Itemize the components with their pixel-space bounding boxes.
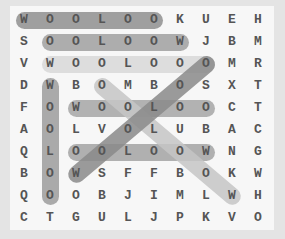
letter-cell[interactable]: O	[89, 97, 115, 119]
letter-cell[interactable]: G	[63, 207, 89, 229]
letter-cell[interactable]: S	[11, 31, 37, 53]
letter-cell[interactable]: M	[115, 75, 141, 97]
letter-cell[interactable]: B	[193, 119, 219, 141]
letter-cell[interactable]: B	[63, 75, 89, 97]
letter-cell[interactable]: J	[115, 185, 141, 207]
letter-cell[interactable]: M	[245, 31, 271, 53]
letter-cell[interactable]: O	[115, 31, 141, 53]
letter-cell[interactable]: O	[167, 97, 193, 119]
letter-cell[interactable]: V	[89, 119, 115, 141]
letter-cell[interactable]: O	[37, 163, 63, 185]
letter-cell[interactable]: Q	[11, 185, 37, 207]
letter-cell[interactable]: O	[37, 185, 63, 207]
letter-cell[interactable]: W	[245, 163, 271, 185]
letter-cell[interactable]: B	[11, 163, 37, 185]
letter-cell[interactable]: H	[245, 185, 271, 207]
letter-cell[interactable]: N	[219, 141, 245, 163]
letter-cell[interactable]: L	[141, 97, 167, 119]
letter-cell[interactable]: L	[89, 31, 115, 53]
letter-cell[interactable]: O	[115, 119, 141, 141]
letter-cell[interactable]: W	[37, 53, 63, 75]
letter-cell[interactable]: O	[115, 97, 141, 119]
letter-cell[interactable]: O	[193, 163, 219, 185]
letter-cell[interactable]: K	[193, 207, 219, 229]
letter-cell[interactable]: A	[11, 119, 37, 141]
letter-cell[interactable]: L	[115, 53, 141, 75]
letter-cell[interactable]: L	[141, 119, 167, 141]
letter-cell[interactable]: O	[167, 141, 193, 163]
letter-cell[interactable]: O	[167, 75, 193, 97]
letter-cell[interactable]: S	[193, 75, 219, 97]
letter-cell[interactable]: W	[37, 75, 63, 97]
letter-cell[interactable]: D	[11, 75, 37, 97]
letter-cell[interactable]: O	[115, 9, 141, 31]
letter-cell[interactable]: W	[167, 31, 193, 53]
letter-cell[interactable]: J	[193, 31, 219, 53]
letter-cell[interactable]: V	[11, 53, 37, 75]
letter-cell[interactable]: V	[219, 207, 245, 229]
letter-cell[interactable]: C	[245, 119, 271, 141]
letter-cell[interactable]: O	[141, 141, 167, 163]
letter-cell[interactable]: E	[219, 9, 245, 31]
letter-cell[interactable]: O	[63, 53, 89, 75]
letter-cell[interactable]: U	[193, 9, 219, 31]
letter-cell[interactable]: K	[219, 163, 245, 185]
letter-cell[interactable]: O	[89, 141, 115, 163]
letter-cell[interactable]: C	[11, 207, 37, 229]
letter-cell[interactable]: S	[89, 163, 115, 185]
letter-cell[interactable]: O	[63, 141, 89, 163]
letter-cell[interactable]: P	[167, 207, 193, 229]
letter-cell[interactable]: F	[141, 163, 167, 185]
letter-cell[interactable]: R	[245, 53, 271, 75]
letter-cell[interactable]: W	[63, 163, 89, 185]
letter-cell[interactable]: O	[141, 31, 167, 53]
letter-cell[interactable]: F	[115, 163, 141, 185]
letter-cell[interactable]: W	[219, 185, 245, 207]
letter-cell[interactable]: O	[141, 9, 167, 31]
letter-cell[interactable]: O	[37, 97, 63, 119]
letter-cell[interactable]: B	[89, 185, 115, 207]
letter-cell[interactable]: O	[89, 75, 115, 97]
letter-cell[interactable]: O	[245, 207, 271, 229]
letter-cell[interactable]: O	[193, 53, 219, 75]
letter-cell[interactable]: A	[219, 119, 245, 141]
letter-cell[interactable]: L	[63, 119, 89, 141]
letter-cell[interactable]: U	[89, 207, 115, 229]
letter-cell[interactable]: O	[193, 97, 219, 119]
letter-cell[interactable]: C	[219, 97, 245, 119]
letter-cell[interactable]: T	[245, 75, 271, 97]
letter-cell[interactable]: O	[63, 185, 89, 207]
letter-cell[interactable]: O	[89, 53, 115, 75]
letter-cell[interactable]: M	[219, 53, 245, 75]
letter-cell[interactable]: K	[167, 9, 193, 31]
letter-cell[interactable]: M	[167, 185, 193, 207]
letter-cell[interactable]: L	[193, 185, 219, 207]
letter-cell[interactable]: T	[37, 207, 63, 229]
letter-cell[interactable]: O	[37, 119, 63, 141]
letter-cell[interactable]: O	[63, 31, 89, 53]
letter-cell[interactable]: T	[245, 97, 271, 119]
letter-cell[interactable]: X	[219, 75, 245, 97]
letter-cell[interactable]: H	[245, 9, 271, 31]
letter-cell[interactable]: F	[11, 97, 37, 119]
letter-cell[interactable]: J	[141, 207, 167, 229]
letter-cell[interactable]: Q	[11, 141, 37, 163]
letter-cell[interactable]: O	[167, 53, 193, 75]
letter-cell[interactable]: O	[37, 9, 63, 31]
letter-cell[interactable]: W	[193, 141, 219, 163]
letter-cell[interactable]: L	[89, 9, 115, 31]
letter-cell[interactable]: O	[141, 53, 167, 75]
letter-cell[interactable]: G	[245, 141, 271, 163]
letter-cell[interactable]: O	[63, 9, 89, 31]
letter-cell[interactable]: W	[11, 9, 37, 31]
letter-cell[interactable]: L	[37, 141, 63, 163]
letter-cell[interactable]: U	[167, 119, 193, 141]
letter-cell[interactable]: L	[115, 207, 141, 229]
letter-cell[interactable]: O	[37, 31, 63, 53]
letter-cell[interactable]: L	[115, 141, 141, 163]
letter-cell[interactable]: I	[141, 185, 167, 207]
letter-cell[interactable]: B	[219, 31, 245, 53]
letter-cell[interactable]: B	[167, 163, 193, 185]
letter-cell[interactable]: B	[141, 75, 167, 97]
letter-cell[interactable]: W	[63, 97, 89, 119]
